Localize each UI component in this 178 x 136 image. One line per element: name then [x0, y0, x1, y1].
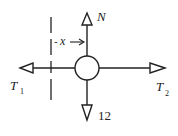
tension-right-subscript: 2 — [165, 89, 169, 98]
free-body-diagram: - x N T 1 T 2 12 — [0, 0, 178, 136]
tension-right-label: T — [156, 79, 164, 94]
body-circle — [75, 56, 99, 80]
tension-left-label: T — [10, 78, 18, 93]
weight-arrow: 12 — [82, 80, 111, 123]
distance-x-indicator: - x — [54, 34, 84, 48]
distance-label: x — [59, 34, 66, 48]
weight-label: 12 — [98, 108, 111, 123]
normal-force-arrow: N — [82, 9, 107, 56]
arrow-up-icon — [82, 13, 92, 25]
tension-right-arrow: T 2 — [99, 63, 169, 98]
normal-force-label: N — [96, 9, 107, 24]
arrow-left-icon — [20, 63, 33, 73]
arrow-right-icon — [150, 63, 165, 73]
distance-prefix: - — [54, 35, 58, 47]
arrow-down-icon — [82, 105, 92, 120]
tension-left-arrow: T 1 — [10, 63, 75, 96]
tension-left-subscript: 1 — [20, 87, 24, 96]
